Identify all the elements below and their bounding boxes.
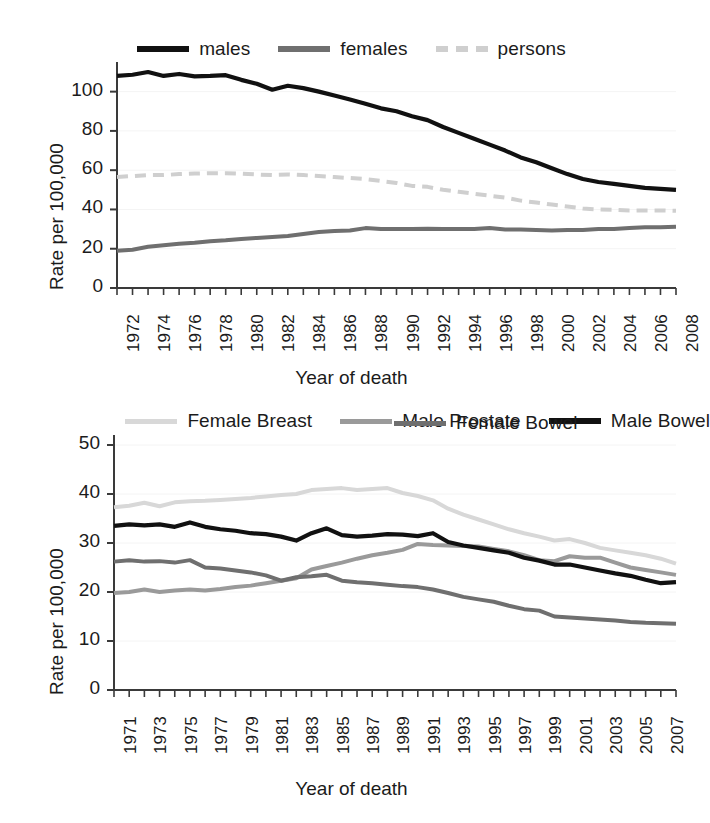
x-tick-label: 1980 [248,314,268,352]
y-tick-label: 0 [39,275,103,297]
legend-item-males[interactable]: males [137,38,250,60]
x-tick-label: 2006 [652,314,672,352]
x-tick-label: 1975 [182,716,202,754]
legend-swatch-female-breast [125,419,177,424]
x-tick-label: 1986 [341,314,361,352]
x-tick-label: 1978 [217,314,237,352]
legend-item-females[interactable]: females [278,38,407,60]
legend-label-female-bowel: Female Bowel [456,412,578,434]
x-tick-label: 2001 [577,716,597,754]
y-tick-label: 40 [36,481,100,503]
x-tick-label: 1979 [243,716,263,754]
y-axis-title-bottom: Rate per 100,000 [46,548,68,695]
x-tick-label: 1983 [303,716,323,754]
x-tick-label: 1993 [455,716,475,754]
legend-swatch-males [137,46,189,52]
legend-item-female-bowel[interactable]: Female Bowel [394,412,578,434]
x-tick-label: 2000 [559,314,579,352]
x-tick-label: 1984 [310,314,330,352]
x-tick-label: 1996 [497,314,517,352]
legend-top: males females persons [0,38,703,62]
x-tick-label: 1982 [279,314,299,352]
legend-swatch-persons [436,46,488,52]
x-tick-label: 1972 [124,314,144,352]
x-tick-label: 1981 [273,716,293,754]
x-tick-label: 1985 [334,716,354,754]
y-tick-label: 30 [36,530,100,552]
y-tick-label: 50 [36,432,100,454]
y-tick-label: 60 [39,157,103,179]
x-tick-label: 1998 [528,314,548,352]
x-axis-title-bottom: Year of death [0,778,703,800]
legend-label-male-bowel: Male Bowel [611,410,710,432]
legend-label-females: females [340,38,407,60]
x-tick-label: 1992 [435,314,455,352]
x-tick-label: 2007 [668,716,688,754]
x-tick-label: 2003 [607,716,627,754]
x-tick-label: 2005 [637,716,657,754]
x-tick-label: 1991 [425,716,445,754]
legend-label-female-breast: Female Breast [187,410,312,432]
x-tick-label: 1997 [516,716,536,754]
y-tick-label: 10 [36,628,100,650]
mortality-rate-chart-by-cancer-site: Female Breast Male Prostate Male Bowel F… [0,400,703,823]
x-tick-label: 1987 [364,716,384,754]
x-tick-label: 2004 [621,314,641,352]
y-tick-label: 20 [36,579,100,601]
y-tick-label: 0 [36,677,100,699]
x-tick-label: 1995 [486,716,506,754]
legend-item-persons[interactable]: persons [436,38,566,60]
x-tick-label: 1973 [151,716,171,754]
x-tick-label: 1974 [155,314,175,352]
legend-item-female-breast[interactable]: Female Breast [125,410,312,432]
x-tick-label: 1976 [186,314,206,352]
mortality-rate-chart-by-sex: males females persons Rate per 100,000 1… [0,0,703,400]
y-tick-label: 40 [39,196,103,218]
legend-swatch-female-bowel [394,421,446,426]
legend-label-persons: persons [498,38,566,60]
plot-area-bottom [0,400,703,823]
legend-bottom: Female Breast Male Prostate Male Bowel F… [0,408,703,436]
legend-swatch-male-prostate [340,419,392,424]
x-tick-label: 1994 [466,314,486,352]
x-tick-label: 1971 [121,716,141,754]
x-tick-label: 2008 [683,314,703,352]
legend-swatch-females [278,46,330,52]
x-tick-label: 1988 [372,314,392,352]
legend-label-males: males [199,38,250,60]
x-tick-label: 1999 [546,716,566,754]
y-tick-label: 20 [39,236,103,258]
x-tick-label: 1990 [404,314,424,352]
x-axis-title-top: Year of death [0,367,703,389]
x-tick-label: 2002 [590,314,610,352]
y-tick-label: 100 [39,79,103,101]
y-tick-label: 80 [39,118,103,140]
x-tick-label: 1977 [212,716,232,754]
x-tick-label: 1989 [394,716,414,754]
